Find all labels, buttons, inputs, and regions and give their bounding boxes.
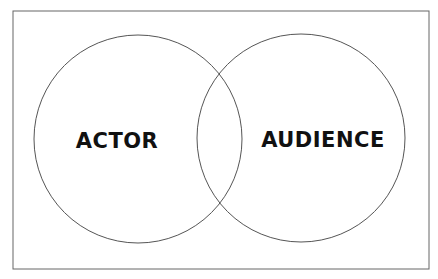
actor-label: ACTOR: [76, 129, 159, 153]
venn-diagram: ACTOR AUDIENCE: [0, 0, 438, 279]
audience-label: AUDIENCE: [261, 128, 385, 152]
